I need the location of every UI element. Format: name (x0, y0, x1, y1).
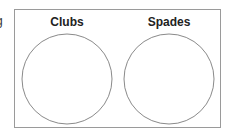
clubs-label: Clubs (50, 15, 83, 29)
spades-label: Spades (148, 15, 191, 29)
venn-circles (0, 0, 234, 134)
spades-circle (124, 34, 214, 124)
clubs-circle (22, 34, 112, 124)
